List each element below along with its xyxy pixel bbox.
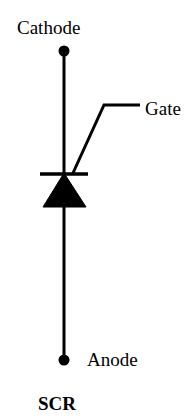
cathode-label: Cathode: [17, 18, 80, 37]
cathode-terminal-dot: [59, 46, 70, 57]
gate-lead-line: [73, 105, 140, 173]
device-name-label: SCR: [38, 394, 76, 413]
scr-schematic-diagram: Cathode Gate Anode SCR: [0, 0, 194, 420]
anode-triangle-shape: [43, 173, 86, 207]
anode-label: Anode: [87, 350, 138, 369]
gate-label: Gate: [145, 99, 181, 118]
anode-terminal-dot: [59, 355, 70, 366]
